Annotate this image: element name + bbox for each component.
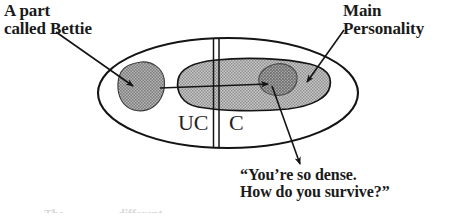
label-region-unconscious: UC (178, 111, 208, 135)
cut-off-caption-fragment-left: The (44, 208, 64, 213)
label-region-conscious: C (229, 111, 244, 135)
cut-off-caption-fragment-right: different (118, 208, 162, 213)
label-quote-youre-so-dense: “You’re so dense. How do you survive?” (240, 166, 390, 201)
leader-line-bettie (56, 32, 133, 86)
label-main-personality: Main Personality (343, 2, 424, 39)
diagram-canvas: A part called Bettie Main Personality “Y… (0, 0, 451, 216)
bettie-blob-shape (118, 62, 165, 111)
label-a-part-called-bettie: A part called Bettie (4, 2, 92, 39)
